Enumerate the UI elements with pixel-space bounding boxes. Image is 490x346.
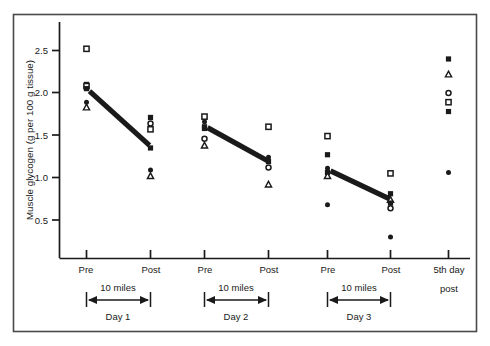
span-label-day2: 10 miles — [218, 282, 254, 293]
data-point-open-square — [388, 171, 393, 176]
day-label-3: Day 3 — [347, 311, 372, 322]
data-point-open-square — [148, 127, 153, 132]
data-point-filled-square — [84, 86, 89, 91]
x-tick-label-pre-day3: Pre — [321, 264, 336, 275]
x-tick-label-post-day1: Post — [141, 264, 160, 275]
x-tick-label-fifth-day-line1: 5th day — [433, 264, 464, 275]
x-tick-label-pre-day1: Pre — [79, 264, 94, 275]
trend-lines — [90, 91, 390, 199]
data-point-filled-square — [202, 126, 207, 131]
data-point-open-circle — [202, 136, 207, 141]
data-point-open-square — [84, 46, 89, 51]
data-point-filled-square — [446, 109, 451, 114]
span-brackets — [87, 292, 391, 307]
y-tick-label: 2.0 — [35, 87, 48, 98]
data-point-open-triangle — [201, 142, 207, 148]
muscle-glycogen-scatter-chart: 2.5 2.0 1.5 1.0 0.5 Muscle glycogen (g p… — [0, 0, 490, 346]
data-point-open-square — [325, 133, 330, 138]
data-point-filled-circle — [202, 119, 207, 124]
y-axis-ticks — [52, 51, 60, 221]
data-point-filled-square — [148, 115, 153, 120]
data-point-open-triangle — [147, 173, 153, 179]
x-axis-tick-labels: Pre Post Pre Post Pre Post 5th day post — [79, 264, 465, 294]
x-tick-label-pre-day2: Pre — [198, 264, 213, 275]
trend-line-day-2 — [208, 128, 268, 161]
figure-panel: 2.5 2.0 1.5 1.0 0.5 Muscle glycogen (g p… — [0, 0, 490, 346]
y-tick-label: 2.5 — [35, 45, 48, 56]
trend-line-day-1 — [90, 91, 150, 145]
data-point-filled-square — [266, 159, 271, 164]
data-point-open-circle — [446, 90, 451, 95]
data-point-filled-circle — [325, 202, 330, 207]
x-tick-label-post-day2: Post — [259, 264, 278, 275]
span-labels: 10 miles 10 miles 10 miles — [100, 282, 377, 293]
data-points — [83, 46, 451, 239]
y-axis-tick-labels: 2.5 2.0 1.5 1.0 0.5 — [35, 45, 48, 226]
data-point-open-circle — [266, 165, 271, 170]
data-point-open-circle — [388, 206, 393, 211]
day-label-2: Day 2 — [224, 311, 249, 322]
data-point-open-circle — [148, 121, 153, 126]
data-point-open-square — [266, 124, 271, 129]
trend-line-day-3 — [331, 171, 390, 199]
data-point-filled-square — [446, 56, 451, 61]
y-axis-title: Muscle glycogen (g per 100 g tissue) — [24, 60, 35, 220]
day-labels: Day 1 Day 2 Day 3 — [106, 311, 372, 322]
x-tick-label-post-day3: Post — [381, 264, 400, 275]
data-point-open-square — [202, 114, 207, 119]
span-label-day1: 10 miles — [100, 282, 136, 293]
day-label-1: Day 1 — [106, 311, 131, 322]
data-point-open-triangle — [265, 181, 271, 187]
data-point-filled-square — [325, 152, 330, 157]
data-point-open-triangle — [445, 71, 451, 77]
x-axis-ticks — [87, 250, 449, 259]
data-point-open-triangle — [83, 104, 89, 110]
data-point-filled-circle — [388, 234, 393, 239]
data-point-open-square — [446, 100, 451, 105]
data-point-filled-square — [148, 145, 153, 150]
data-point-filled-square — [388, 200, 393, 205]
y-tick-label: 1.5 — [35, 130, 48, 141]
x-tick-label-fifth-day-line2: post — [440, 283, 458, 294]
span-label-day3: 10 miles — [341, 282, 377, 293]
y-tick-label: 0.5 — [35, 215, 48, 226]
data-point-filled-circle — [446, 170, 451, 175]
y-tick-label: 1.0 — [35, 172, 48, 183]
